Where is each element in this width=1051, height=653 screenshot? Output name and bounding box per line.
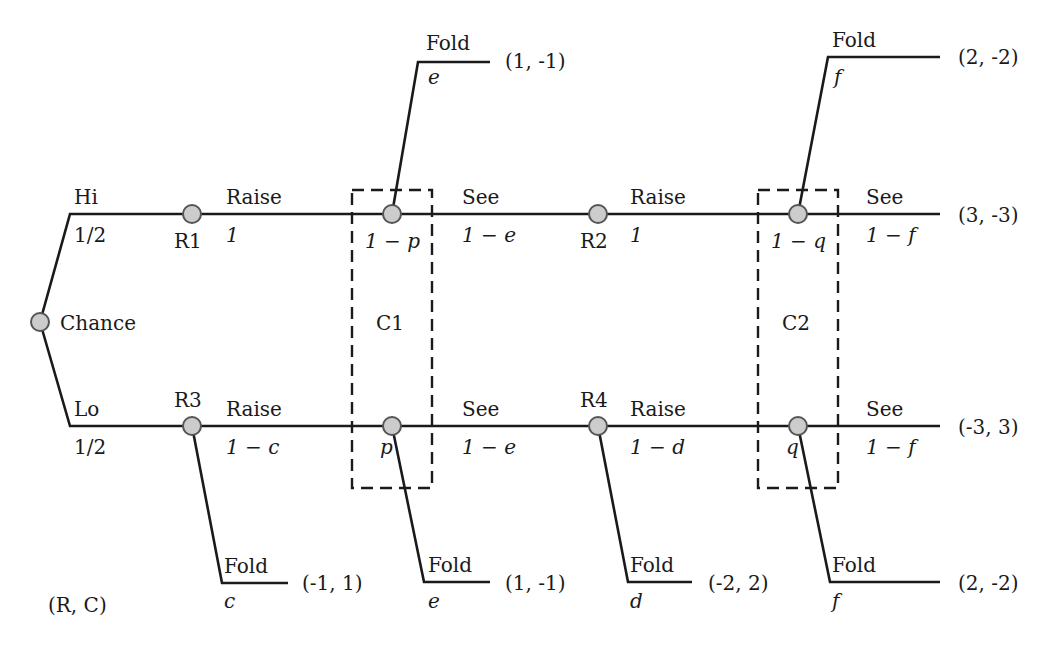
r4-prob: 1 − d <box>630 435 685 459</box>
c2-top-see-payoff: (3, -3) <box>958 203 1019 227</box>
c1-top-prob: 1 − p <box>365 229 420 253</box>
r4-label: R4 <box>580 388 608 412</box>
c1-bottom-see: See <box>462 397 499 421</box>
r3-action: Raise <box>226 397 282 421</box>
c2-top-prob: 1 − q <box>771 229 826 253</box>
c1-bottom-fold-prob: e <box>428 589 440 613</box>
r4-fold-payoff: (-2, 2) <box>708 571 769 595</box>
r2-prob: 1 <box>630 223 643 247</box>
c2-top-fold: Fold <box>832 28 876 52</box>
c1-bottom-fold: Fold <box>428 553 472 577</box>
node-r2 <box>589 205 607 223</box>
c1-bottom-see-prob: 1 − e <box>462 435 516 459</box>
r4-action: Raise <box>630 397 686 421</box>
chance-label: Chance <box>60 311 136 335</box>
c1-top-see: See <box>462 185 499 209</box>
c2-bottom-fold-payoff: (2, -2) <box>958 571 1019 595</box>
c2-bottom-prob: q <box>786 435 799 459</box>
c2-top-fold-prob: f <box>832 65 845 89</box>
c2-bottom-fold: Fold <box>832 553 876 577</box>
r3-label: R3 <box>174 388 202 412</box>
node-c2-bottom <box>789 417 807 435</box>
r3-fold-payoff: (-1, 1) <box>302 571 363 595</box>
c1-top-fold-prob: e <box>428 65 440 89</box>
c2-top-see-prob: 1 − f <box>866 223 919 247</box>
r2-action: Raise <box>630 185 686 209</box>
c2-top-fold-payoff: (2, -2) <box>958 45 1019 69</box>
c1-label: C1 <box>376 311 404 335</box>
node-r1 <box>183 205 201 223</box>
r1-action: Raise <box>226 185 282 209</box>
c2-bottom-see: See <box>866 397 903 421</box>
c1-bottom-fold-payoff: (1, -1) <box>505 571 566 595</box>
c1-bottom-prob: p <box>380 435 393 459</box>
game-tree-diagram: Chance Hi 1/2 Lo 1/2 R1 R2 R3 R4 C1 C2 R… <box>0 0 1051 653</box>
lo-prob: 1/2 <box>74 435 106 459</box>
c2-bottom-see-payoff: (-3, 3) <box>958 415 1019 439</box>
node-r4 <box>589 417 607 435</box>
hi-prob: 1/2 <box>74 223 106 247</box>
node-c1-bottom <box>383 417 401 435</box>
node-r3 <box>183 417 201 435</box>
hi-label: Hi <box>74 185 98 209</box>
lo-label: Lo <box>74 397 99 421</box>
chance-node <box>31 313 49 331</box>
c1-top-see-prob: 1 − e <box>462 223 516 247</box>
r3-prob: 1 − c <box>226 435 279 459</box>
r1-label: R1 <box>174 229 202 253</box>
c2-top-see: See <box>866 185 903 209</box>
c1-top-fold: Fold <box>426 31 470 55</box>
r4-fold: Fold <box>630 553 674 577</box>
r2-label: R2 <box>580 229 608 253</box>
c1-top-fold-payoff: (1, -1) <box>505 49 566 73</box>
node-c1-top <box>383 205 401 223</box>
payoff-legend: (R, C) <box>48 593 107 617</box>
r1-prob: 1 <box>226 223 239 247</box>
c2-bottom-fold-prob: f <box>830 589 843 613</box>
r3-fold-prob: c <box>224 589 235 613</box>
r4-fold-prob: d <box>630 589 643 613</box>
r3-fold: Fold <box>224 554 268 578</box>
node-c2-top <box>789 205 807 223</box>
c2-bottom-see-prob: 1 − f <box>866 435 919 459</box>
c2-label: C2 <box>782 311 810 335</box>
